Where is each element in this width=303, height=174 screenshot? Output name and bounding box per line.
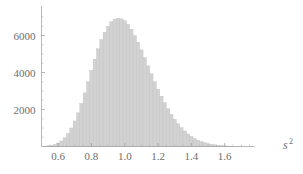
histogram-bar (106, 26, 109, 146)
histogram-figure: 0.60.81.01.21.41.6200040006000s2 (0, 0, 303, 174)
histogram-bar (73, 121, 76, 147)
x-tick-label: 0.6 (51, 150, 65, 162)
histogram-bar (186, 134, 189, 147)
histogram-bar (193, 139, 196, 147)
histogram-plot: 0.60.81.01.21.41.6200040006000s2 (0, 0, 303, 174)
histogram-bar (126, 24, 129, 146)
histogram-bar (110, 22, 113, 147)
x-axis-title: s2 (283, 137, 293, 152)
histogram-bar (83, 93, 86, 147)
histogram-bar (203, 143, 206, 147)
x-axis-title-exponent: 2 (289, 137, 293, 146)
histogram-bar (140, 50, 143, 147)
histogram-bar (113, 19, 116, 146)
x-tick-label: 1.0 (118, 150, 132, 162)
histogram-bar (133, 36, 136, 147)
x-tick-label: 1.4 (184, 150, 198, 162)
x-axis-title-base: s (283, 138, 288, 152)
histogram-bar (150, 74, 153, 147)
histogram-bar (116, 18, 119, 146)
histogram-bar (123, 21, 126, 147)
histogram-bar (163, 103, 166, 147)
histogram-bar (136, 42, 139, 146)
histogram-bar (183, 131, 186, 147)
histogram-bar (170, 114, 173, 146)
x-tick-label: 0.8 (85, 150, 99, 162)
histogram-bar (66, 134, 69, 147)
histogram-bar (166, 109, 169, 147)
histogram-bar (146, 66, 149, 147)
histogram-bar (100, 40, 103, 147)
x-tick-label: 1.6 (218, 150, 232, 162)
histogram-bar (96, 49, 99, 147)
histogram-bar (173, 119, 176, 146)
y-tick-label: 6000 (14, 30, 37, 42)
histogram-bar (120, 19, 123, 147)
y-tick-label: 4000 (14, 67, 37, 79)
histogram-bars (43, 18, 233, 146)
histogram-bar (103, 32, 106, 146)
histogram-bar (156, 89, 159, 146)
histogram-bar (130, 29, 133, 146)
histogram-bar (143, 58, 146, 147)
histogram-bar (160, 96, 163, 146)
histogram-bar (86, 82, 89, 147)
histogram-bar (176, 124, 179, 147)
histogram-bar (60, 141, 63, 147)
histogram-bar (80, 103, 83, 146)
histogram-bar (70, 128, 73, 147)
histogram-bar (76, 113, 79, 147)
histogram-bar (93, 59, 96, 146)
histogram-bar (90, 70, 93, 146)
histogram-bar (200, 142, 203, 147)
histogram-bar (63, 138, 66, 147)
histogram-bar (153, 82, 156, 147)
histogram-bar (196, 140, 199, 146)
x-tick-label: 1.2 (151, 150, 165, 162)
histogram-bar (180, 128, 183, 147)
y-tick-label: 2000 (14, 104, 37, 116)
